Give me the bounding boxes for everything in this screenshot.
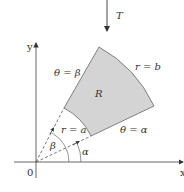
transformation-label: T [116,10,124,21]
upper-ray-label: θ = β [54,67,81,78]
origin-label: 0 [27,167,33,178]
alpha-angle-label: α [82,146,89,157]
outer-arc-label: r = b [135,61,161,72]
lower-ray-label: θ = α [120,124,148,135]
alpha-angle-arc [77,143,81,162]
y-axis-label: y [26,41,33,52]
region-label: R [94,88,103,99]
beta-angle-label: β [49,140,56,151]
x-axis-label: x [180,167,184,178]
ray-beta-dashed [36,108,64,162]
inner-arc-label: r = a [61,124,87,135]
polar-rectangle-diagram: T y x 0 R r = b θ = β r = a θ = α β α [0,0,184,192]
